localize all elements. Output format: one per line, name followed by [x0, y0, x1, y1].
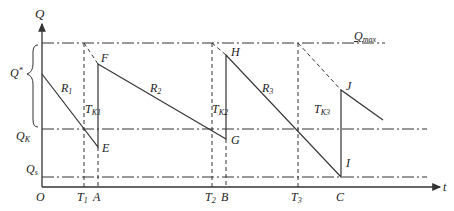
- c-label: C: [336, 191, 344, 203]
- b-label: B: [221, 191, 228, 203]
- interval-tk1: TK1: [85, 103, 101, 117]
- t2-label: T2: [205, 191, 216, 205]
- interval-tk2: TK2: [212, 103, 228, 117]
- qs-label: Qs: [26, 163, 38, 177]
- origin-label: O: [36, 191, 45, 203]
- interval-tk3: TK3: [314, 103, 330, 117]
- a-label: A: [93, 191, 100, 203]
- t3-label: T3: [291, 191, 302, 205]
- segment-r1: R1: [61, 82, 72, 96]
- qmax-label: Qmax: [354, 30, 376, 44]
- q-star-label: Q*: [10, 67, 23, 79]
- inventory-diagram: Q t O Qmax Q* QK Qs T1 A T2 B T3 C F E H…: [0, 0, 454, 211]
- point-h: H: [231, 46, 240, 58]
- qk-label: QK: [16, 130, 30, 144]
- segment-r3: R3: [262, 82, 273, 96]
- point-g: G: [231, 134, 240, 146]
- x-axis-label: t: [443, 181, 446, 193]
- q-star-brace: [27, 45, 38, 127]
- f-projection: [84, 43, 98, 64]
- t1-label: T1: [77, 191, 88, 205]
- j-projection: [298, 43, 341, 90]
- y-axis-label: Q: [35, 7, 44, 20]
- point-f: F: [101, 52, 108, 64]
- point-i: I: [346, 157, 350, 169]
- h-projection: [212, 43, 226, 55]
- segment-r2: R2: [150, 82, 161, 96]
- point-e: E: [102, 142, 109, 154]
- point-j: J: [346, 80, 351, 92]
